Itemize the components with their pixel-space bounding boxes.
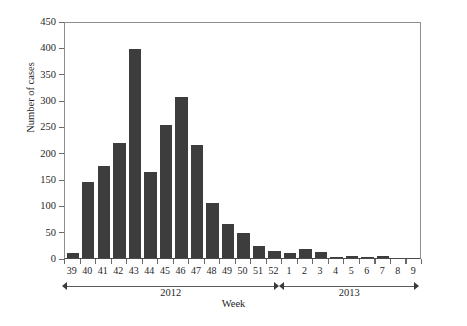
bar-week-48	[206, 203, 218, 258]
x-tick-label-45: 45	[157, 264, 173, 278]
x-tick-label-48: 48	[204, 264, 220, 278]
x-tick-label-39: 39	[64, 264, 80, 278]
x-tick-label-43: 43	[126, 264, 142, 278]
bar-week-3	[315, 252, 327, 258]
x-tick-label-4: 4	[328, 264, 344, 278]
x-tick-label-41: 41	[95, 264, 111, 278]
x-tick-label-50: 50	[235, 264, 251, 278]
bar-week-50	[237, 233, 249, 258]
y-tick-label: 400	[40, 40, 56, 56]
x-tick-label-47: 47	[188, 264, 204, 278]
x-tick-label-7: 7	[374, 264, 390, 278]
bar-week-42	[113, 143, 125, 258]
bar-week-39	[67, 253, 79, 258]
y-tick-mark	[59, 206, 64, 207]
x-tick-label-6: 6	[359, 264, 375, 278]
y-tick-label: 250	[40, 119, 56, 135]
y-tick-label: 50	[46, 225, 57, 241]
y-tick-mark	[59, 127, 64, 128]
bar-week-5	[346, 256, 358, 258]
x-tick-label-9: 9	[405, 264, 421, 278]
bar-week-47	[191, 145, 203, 258]
x-tick-label-5: 5	[343, 264, 359, 278]
y-tick-mark	[59, 74, 64, 75]
x-tick-label-42: 42	[111, 264, 127, 278]
y-tick-mark	[59, 48, 64, 49]
bar-week-51	[253, 246, 265, 258]
plot-area	[64, 22, 421, 259]
x-tick-label-49: 49	[219, 264, 235, 278]
x-tick-label-44: 44	[142, 264, 158, 278]
y-tick-label: 200	[40, 146, 56, 162]
bar-week-6	[361, 257, 373, 258]
y-tick-label: 150	[40, 172, 56, 188]
bar-week-46	[175, 97, 187, 258]
bar-week-40	[82, 182, 94, 258]
bar-week-41	[98, 166, 110, 258]
y-tick-mark	[59, 101, 64, 102]
bar-week-44	[144, 172, 156, 258]
x-tick-label-51: 51	[250, 264, 266, 278]
x-tick-label-1: 1	[281, 264, 297, 278]
x-tick-mark	[421, 259, 422, 264]
bar-week-2	[299, 249, 311, 258]
year-label-2013: 2013	[279, 287, 419, 298]
y-tick-label: 450	[40, 14, 56, 30]
bar-week-7	[377, 256, 389, 258]
bar-week-45	[160, 125, 172, 258]
x-tick-label-8: 8	[390, 264, 406, 278]
bar-week-4	[330, 257, 342, 258]
bar-week-52	[268, 251, 280, 258]
bar-week-49	[222, 224, 234, 258]
y-axis-title: Number of cases	[25, 23, 36, 173]
x-tick-label-46: 46	[173, 264, 189, 278]
x-tick-label-3: 3	[312, 264, 328, 278]
x-tick-label-40: 40	[80, 264, 96, 278]
year-label-2012: 2012	[62, 287, 279, 298]
y-tick-label: 0	[51, 251, 56, 267]
bar-series	[65, 23, 420, 258]
y-tick-label: 300	[40, 93, 56, 109]
y-tick-label: 100	[40, 198, 56, 214]
x-tick-label-52: 52	[266, 264, 282, 278]
y-tick-label: 350	[40, 67, 56, 83]
y-tick-mark	[59, 22, 64, 23]
x-axis-title: Week	[0, 298, 467, 309]
y-tick-mark	[59, 232, 64, 233]
y-tick-mark	[59, 153, 64, 154]
x-tick-label-2: 2	[297, 264, 313, 278]
bar-week-1	[284, 253, 296, 258]
bar-week-43	[129, 49, 141, 258]
epidemic-curve-chart: 450400350300250200150100500 Number of ca…	[0, 0, 467, 326]
y-tick-mark	[59, 180, 64, 181]
